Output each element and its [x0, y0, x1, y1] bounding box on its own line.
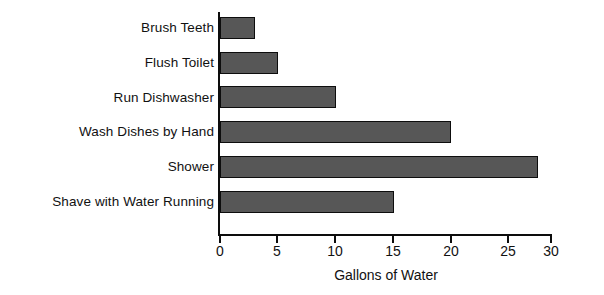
x-tick-label: 25	[488, 244, 528, 258]
category-label: Brush Teeth	[141, 21, 214, 35]
x-tick-mark	[219, 236, 221, 243]
x-tick-mark	[334, 236, 336, 243]
category-label: Wash Dishes by Hand	[79, 125, 214, 139]
x-tick-label: 10	[315, 244, 355, 258]
x-tick-label: 30	[531, 244, 571, 258]
x-tick-mark	[550, 236, 552, 243]
y-axis-line	[218, 12, 220, 236]
x-tick-mark	[392, 236, 394, 243]
x-tick-label: 0	[200, 244, 240, 258]
x-tick-label: 15	[373, 244, 413, 258]
category-label: Run Dishwasher	[114, 91, 214, 105]
category-axis-labels: Brush Teeth Flush Toilet Run Dishwasher …	[0, 0, 214, 295]
category-label: Shave with Water Running	[52, 195, 214, 209]
bar-wash-dishes-by-hand	[220, 121, 451, 143]
x-tick-label: 20	[431, 244, 471, 258]
bar-shave-with-water-running	[220, 191, 394, 213]
x-tick-mark	[507, 236, 509, 243]
category-label: Shower	[168, 160, 214, 174]
x-tick-mark	[450, 236, 452, 243]
x-axis-title: Gallons of Water	[220, 268, 552, 282]
bar-shower	[220, 156, 538, 178]
x-axis-line	[218, 234, 552, 236]
bar-run-dishwasher	[220, 86, 336, 108]
bar-chart: Brush Teeth Flush Toilet Run Dishwasher …	[0, 0, 604, 295]
x-tick-mark	[276, 236, 278, 243]
plot-area	[220, 12, 580, 234]
bar-brush-teeth	[220, 17, 255, 39]
category-label: Flush Toilet	[145, 56, 214, 70]
x-tick-label: 5	[257, 244, 297, 258]
bar-flush-toilet	[220, 52, 278, 74]
